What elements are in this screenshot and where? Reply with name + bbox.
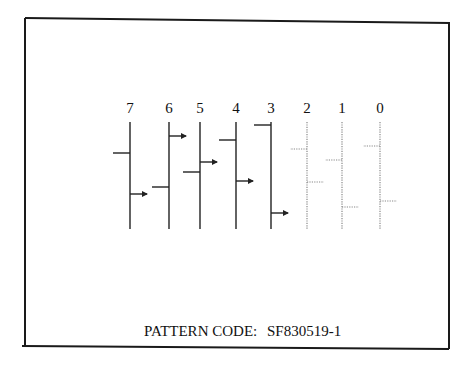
- channel-label: 3: [267, 100, 275, 116]
- channel-6: 6: [152, 100, 186, 229]
- channel-7: 7: [113, 100, 147, 229]
- channel-label: 2: [303, 100, 311, 116]
- channel-4: 4: [219, 100, 253, 229]
- channel-5: 5: [183, 100, 217, 229]
- channel-label: 1: [338, 100, 346, 116]
- channel-label: 6: [165, 100, 173, 116]
- channel-3: 3: [254, 100, 288, 229]
- channel-1: 1: [325, 100, 359, 229]
- pattern-code-caption: PATTERN CODE: SF830519-1: [144, 323, 341, 339]
- pattern-diagram: 76543210 PATTERN CODE: SF830519-1: [0, 0, 472, 370]
- channel-label: 5: [196, 100, 204, 116]
- channel-label: 4: [232, 100, 240, 116]
- pattern-code-label: PATTERN CODE:: [144, 323, 257, 339]
- channel-label: 7: [126, 100, 134, 116]
- channel-2: 2: [290, 100, 324, 229]
- channel-lines: 76543210: [113, 100, 397, 229]
- channel-0: 0: [363, 100, 397, 229]
- channel-label: 0: [376, 100, 384, 116]
- pattern-code-value: SF830519-1: [267, 323, 341, 339]
